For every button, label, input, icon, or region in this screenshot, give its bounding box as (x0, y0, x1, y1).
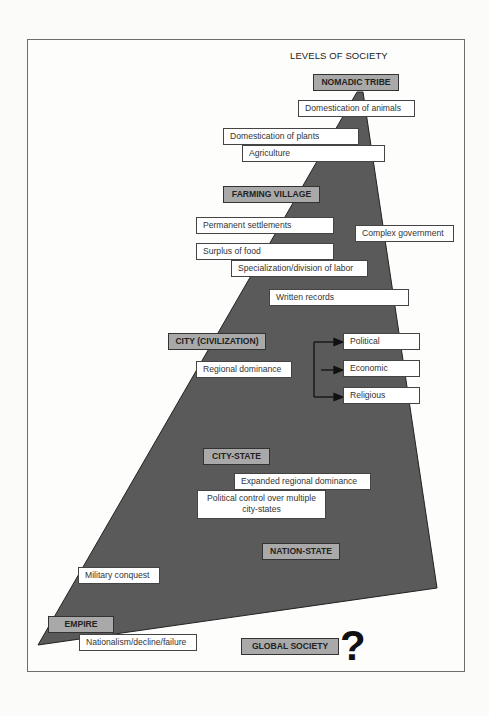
note-military-conquest: Military conquest (78, 567, 160, 584)
note-written-records: Written records (269, 289, 409, 306)
note-domestication-animals: Domestication of animals (298, 100, 415, 117)
diagram-title: LEVELS OF SOCIETY (290, 50, 388, 61)
question-mark: ? (340, 624, 366, 668)
note-surplus-food: Surplus of food (196, 243, 334, 260)
level-global-society: GLOBAL SOCIETY (241, 638, 339, 655)
note-permanent-settlements: Permanent settlements (196, 217, 334, 234)
note-economic: Economic (343, 360, 420, 377)
society-growth-shape (0, 0, 489, 716)
note-regional-dominance: Regional dominance (196, 361, 292, 378)
level-city-civilization: CITY (CIVILIZATION) (168, 333, 266, 350)
note-expanded-regional-dominance: Expanded regional dominance (234, 473, 371, 490)
note-domestication-plants: Domestication of plants (223, 128, 359, 145)
note-political: Political (343, 333, 420, 350)
note-political-control: Political control over multiple city-sta… (197, 490, 326, 519)
note-nationalism: Nationalism/decline/failure (79, 634, 197, 651)
note-agriculture: Agriculture (242, 145, 385, 162)
level-nomadic-tribe: NOMADIC TRIBE (313, 74, 399, 91)
note-complex-government: Complex government (355, 225, 454, 242)
level-nation-state: NATION-STATE (262, 543, 340, 560)
level-city-state: CITY-STATE (203, 448, 270, 465)
level-empire: EMPIRE (48, 616, 114, 633)
note-religious: Religious (343, 387, 420, 404)
note-specialization: Specialization/division of labor (231, 260, 368, 277)
level-farming-village: FARMING VILLAGE (223, 186, 320, 203)
